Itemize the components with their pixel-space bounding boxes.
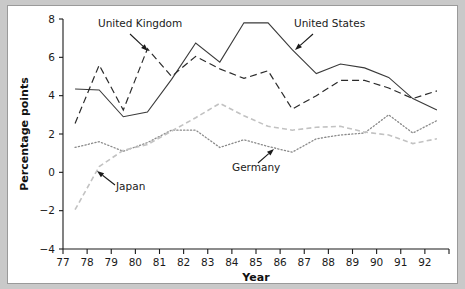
y-tick-label: 8 xyxy=(48,13,55,25)
x-tick-label: 82 xyxy=(177,256,190,268)
x-tick-label: 83 xyxy=(201,256,214,268)
x-tick-label: 77 xyxy=(56,256,69,268)
y-tick-label: 4 xyxy=(48,89,55,101)
annotation-leader xyxy=(300,34,313,45)
x-axis-title: Year xyxy=(241,271,270,283)
annotation-label-japan: Japan xyxy=(115,180,145,192)
y-tick-label: −2 xyxy=(40,204,55,216)
x-tick-label: 89 xyxy=(346,256,359,268)
x-tick-label: 91 xyxy=(394,256,407,268)
x-tick-label: 80 xyxy=(129,256,142,268)
x-tick-label: 79 xyxy=(105,256,118,268)
line-chart: −4−2024687778798081828384858687888990919… xyxy=(8,6,457,283)
y-tick-label: 2 xyxy=(48,128,55,140)
x-tick-label: 81 xyxy=(153,256,166,268)
y-tick-label: 6 xyxy=(48,51,55,63)
x-tick-label: 86 xyxy=(273,256,287,268)
x-tick-label: 90 xyxy=(370,256,383,268)
x-tick-label: 92 xyxy=(418,256,431,268)
annotation-leader xyxy=(103,175,115,185)
series-line-united-states xyxy=(75,23,437,117)
annotation-label-germany: Germany xyxy=(232,161,280,173)
series-line-united-kingdom xyxy=(75,49,437,124)
figure-panel: −4−2024687778798081828384858687888990919… xyxy=(7,5,458,284)
annotation-label-united-kingdom: United Kingdom xyxy=(98,17,182,29)
x-tick-label: 78 xyxy=(80,256,93,268)
annotation-leader xyxy=(130,34,143,46)
y-tick-label: 0 xyxy=(48,166,55,178)
x-tick-label: 85 xyxy=(249,256,262,268)
y-tick-label: −4 xyxy=(40,243,56,255)
x-tick-label: 84 xyxy=(225,256,239,268)
x-tick-label: 88 xyxy=(322,256,335,268)
annotation-label-united-states: United States xyxy=(294,17,365,29)
y-axis-title: Percentage points xyxy=(18,77,31,191)
x-tick-label: 87 xyxy=(298,256,311,268)
